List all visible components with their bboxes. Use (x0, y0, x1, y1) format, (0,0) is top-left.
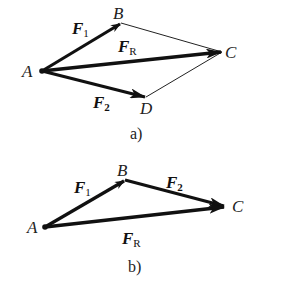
label-F1: F1 (71, 19, 89, 39)
point-A-dot (42, 224, 48, 230)
figure-b: A B C F1 F2 FR b) (26, 161, 244, 276)
label-C: C (225, 43, 237, 62)
label-B: B (113, 4, 124, 23)
label-B: B (117, 161, 128, 180)
caption-b: b) (128, 258, 141, 276)
label-F2: F2 (165, 173, 183, 193)
label-C: C (232, 197, 244, 216)
caption-a: a) (130, 125, 142, 143)
figure-a: A B C D F1 FR F2 a) (21, 4, 237, 143)
label-FR: FR (117, 37, 137, 57)
label-A: A (26, 218, 38, 237)
label-F1: F1 (73, 178, 91, 198)
point-A-dot (39, 68, 45, 74)
force-parallelogram-diagram: A B C D F1 FR F2 a) A B C F1 F2 FR b) (0, 0, 281, 284)
label-D: D (139, 99, 153, 118)
label-A: A (21, 62, 33, 81)
label-FR: FR (121, 229, 141, 249)
label-F2: F2 (92, 93, 110, 113)
